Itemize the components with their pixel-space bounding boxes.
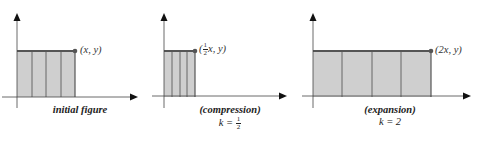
panel-initial [2,13,138,108]
fraction-denominator: 2 [236,124,242,131]
point-label-suffix: x, y) [208,43,226,54]
point-label-expansion: (2x, y) [435,44,462,56]
y-axis-arrow-icon [161,13,168,21]
x-axis-arrow-icon [463,93,471,100]
x-axis-arrow-icon [130,94,138,101]
caption-k-value: k = 12 [185,116,275,131]
panel-compression [152,13,287,108]
y-axis-arrow-icon [14,13,21,21]
point-marker [73,49,78,54]
point-label-initial: (x, y) [80,44,102,56]
x-axis-arrow-icon [279,93,287,100]
caption-k-value: k = 2 [345,116,435,128]
caption-expansion: (expansion) k = 2 [345,104,435,128]
point-label-text: (x, y) [80,44,102,55]
caption-compression: (compression) k = 12 [185,104,275,131]
caption-initial: initial figure [25,104,135,116]
caption-title: (expansion) [345,104,435,116]
fraction-half: 12 [236,116,242,131]
k-prefix: k = [219,117,236,128]
panel-expansion [302,13,471,108]
point-label-compression: (12x, y) [199,42,226,57]
point-marker [193,49,198,54]
point-label-text: (2x, y) [435,44,462,55]
caption-title: initial figure [25,104,135,116]
y-axis-arrow-icon [310,13,317,21]
caption-title: (compression) [185,104,275,116]
point-marker [429,49,434,54]
